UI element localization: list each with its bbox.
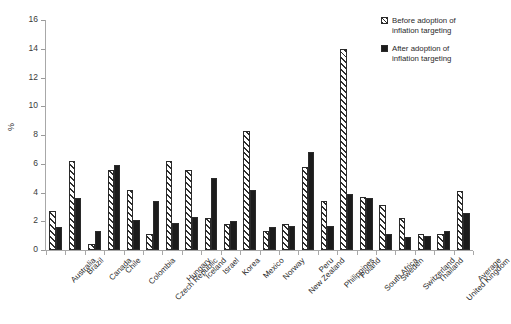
x-tick-mark bbox=[260, 251, 261, 255]
bar-after[interactable] bbox=[133, 220, 139, 250]
x-tick-mark bbox=[337, 251, 338, 255]
y-tick-label: 2 bbox=[12, 216, 38, 225]
bar-after[interactable] bbox=[347, 194, 353, 250]
bar-group bbox=[146, 20, 159, 250]
y-tick-mark bbox=[41, 20, 45, 21]
legend-swatch-before-icon bbox=[381, 17, 388, 24]
bar-after[interactable] bbox=[405, 237, 411, 250]
bar-after[interactable] bbox=[230, 221, 236, 250]
bar-group bbox=[360, 20, 373, 250]
legend-swatch-after-icon bbox=[381, 45, 388, 52]
x-tick-mark bbox=[318, 251, 319, 255]
y-tick-label: 16 bbox=[12, 15, 38, 24]
x-tick-mark bbox=[454, 251, 455, 255]
x-tick-mark bbox=[162, 251, 163, 255]
x-tick-label: Colombia bbox=[147, 256, 177, 286]
bar-after[interactable] bbox=[95, 231, 101, 250]
x-tick-mark bbox=[201, 251, 202, 255]
x-tick-label: Korea bbox=[241, 256, 262, 277]
y-tick-mark bbox=[41, 135, 45, 136]
bar-after[interactable] bbox=[192, 217, 198, 250]
y-tick-mark bbox=[41, 49, 45, 50]
bar-group bbox=[282, 20, 295, 250]
y-tick-mark bbox=[41, 250, 45, 251]
bar-group bbox=[185, 20, 198, 250]
bar-after[interactable] bbox=[386, 234, 392, 250]
y-tick-label: 0 bbox=[12, 245, 38, 254]
x-tick-mark bbox=[124, 251, 125, 255]
bar-group bbox=[224, 20, 237, 250]
bar-group bbox=[69, 20, 82, 250]
y-tick-mark bbox=[41, 78, 45, 79]
bar-group bbox=[205, 20, 218, 250]
legend-label-before-line2: inflation targeting bbox=[392, 26, 487, 36]
bar-after[interactable] bbox=[289, 226, 295, 250]
legend-item-after[interactable]: After adoption of inflation targeting bbox=[381, 44, 487, 63]
bar-after[interactable] bbox=[75, 198, 81, 250]
y-tick-label: 6 bbox=[12, 159, 38, 168]
bar-group bbox=[127, 20, 140, 250]
y-tick-mark bbox=[41, 164, 45, 165]
x-tick-mark bbox=[65, 251, 66, 255]
y-tick-label: 12 bbox=[12, 73, 38, 82]
bar-after[interactable] bbox=[269, 227, 275, 250]
y-tick-label: 4 bbox=[12, 188, 38, 197]
legend-label-before-line1: Before adoption of bbox=[392, 16, 487, 26]
bar-after[interactable] bbox=[444, 231, 450, 250]
bar-after[interactable] bbox=[327, 226, 333, 250]
x-tick-mark bbox=[298, 251, 299, 255]
bar-group bbox=[263, 20, 276, 250]
bar-after[interactable] bbox=[424, 236, 430, 250]
x-tick-mark bbox=[85, 251, 86, 255]
x-tick-mark bbox=[279, 251, 280, 255]
bar-after[interactable] bbox=[56, 227, 62, 250]
bar-after[interactable] bbox=[250, 190, 256, 250]
x-tick-mark bbox=[357, 251, 358, 255]
x-tick-mark bbox=[434, 251, 435, 255]
x-tick-mark bbox=[415, 251, 416, 255]
bar-group bbox=[108, 20, 121, 250]
bar-after[interactable] bbox=[114, 165, 120, 250]
y-tick-mark bbox=[41, 106, 45, 107]
y-tick-mark bbox=[41, 221, 45, 222]
bar-group bbox=[340, 20, 353, 250]
x-tick-mark bbox=[104, 251, 105, 255]
bar-group bbox=[49, 20, 62, 250]
bar-group bbox=[302, 20, 315, 250]
bar-after[interactable] bbox=[308, 152, 314, 250]
x-tick-mark bbox=[240, 251, 241, 255]
bar-group bbox=[88, 20, 101, 250]
legend-label-after-line1: After adoption of bbox=[392, 44, 487, 54]
y-tick-label: 14 bbox=[12, 44, 38, 53]
x-tick-mark bbox=[46, 251, 47, 255]
bar-after[interactable] bbox=[172, 223, 178, 250]
bar-group bbox=[243, 20, 256, 250]
legend-label-after-line2: inflation targeting bbox=[392, 54, 487, 64]
bar-after[interactable] bbox=[463, 213, 469, 250]
y-tick-mark bbox=[41, 193, 45, 194]
x-tick-mark bbox=[473, 251, 474, 255]
y-tick-label: 8 bbox=[12, 130, 38, 139]
x-tick-label: Norway bbox=[281, 256, 307, 282]
bar-after[interactable] bbox=[211, 178, 217, 250]
y-tick-label: 10 bbox=[12, 101, 38, 110]
x-tick-mark bbox=[221, 251, 222, 255]
x-tick-label: Czech Republic bbox=[173, 256, 219, 302]
x-tick-mark bbox=[395, 251, 396, 255]
bar-group bbox=[166, 20, 179, 250]
chart-legend: Before adoption of inflation targeting A… bbox=[381, 16, 487, 72]
bar-after[interactable] bbox=[366, 198, 372, 250]
x-tick-mark bbox=[143, 251, 144, 255]
bar-after[interactable] bbox=[153, 201, 159, 250]
x-tick-mark bbox=[182, 251, 183, 255]
legend-item-before[interactable]: Before adoption of inflation targeting bbox=[381, 16, 487, 35]
x-tick-mark bbox=[376, 251, 377, 255]
bar-group bbox=[321, 20, 334, 250]
